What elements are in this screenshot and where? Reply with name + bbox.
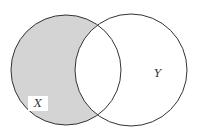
- shaded-region-x-only: [11, 15, 121, 125]
- label-y: Y: [154, 67, 163, 80]
- venn-diagram: X Y: [0, 0, 197, 135]
- label-x: X: [33, 97, 43, 110]
